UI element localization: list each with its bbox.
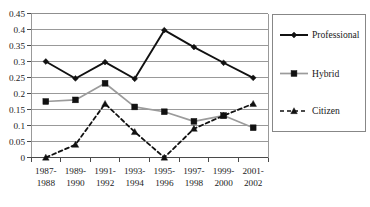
y-tick-label: 0.35: [9, 41, 25, 51]
y-tick-label: 0: [20, 153, 25, 163]
y-tick-label: 0.3: [14, 57, 26, 67]
chart-legend: ProfessionalHybridCitizen: [272, 14, 365, 131]
series-line: [46, 30, 253, 79]
legend-label: Citizen: [312, 105, 340, 116]
y-tick-label: 0.1: [14, 121, 26, 131]
y-tick-label: 0.4: [14, 25, 26, 35]
marker-square: [102, 80, 108, 86]
x-axis-labels: 1987-19881989-19901991-19921993-19941995…: [35, 166, 264, 188]
plot-frame: [31, 14, 268, 158]
marker-square: [161, 109, 167, 115]
y-tick-label: 0.25: [9, 73, 25, 83]
legend-label: Hybrid: [312, 68, 339, 79]
x-axis: [27, 158, 268, 163]
x-tick-label: 1994: [126, 178, 145, 188]
x-tick-label: 1999-: [213, 166, 234, 176]
y-tick-label: 0.15: [9, 105, 25, 115]
line-chart: 00.050.10.150.20.250.30.350.40.45 1987-1…: [0, 0, 370, 207]
marker-square: [73, 97, 79, 103]
x-tick-label: 2001-: [242, 166, 263, 176]
marker-square: [191, 118, 197, 124]
series-hybrid: [43, 80, 256, 130]
series-line: [46, 104, 253, 158]
y-tick-label: 0.05: [9, 137, 25, 147]
x-tick-label: 1993-: [124, 166, 145, 176]
gridlines: [31, 14, 268, 142]
legend-label: Professional: [312, 29, 360, 40]
y-axis-labels: 00.050.10.150.20.250.30.350.40.45: [9, 9, 31, 163]
series-line: [46, 83, 253, 127]
marker-square: [43, 99, 49, 105]
x-tick-label: 1992: [96, 178, 115, 188]
marker-triangle: [250, 100, 257, 106]
series-professional: [43, 27, 256, 81]
x-tick-label: 1997-: [183, 166, 204, 176]
x-tick-label: 1991-: [94, 166, 115, 176]
x-tick-label: 1996: [155, 178, 174, 188]
x-tick-label: 2000: [214, 178, 233, 188]
x-tick-label: 1989-: [65, 166, 86, 176]
x-tick-label: 1988: [37, 178, 56, 188]
x-tick-label: 2002: [244, 178, 263, 188]
marker-square: [132, 104, 138, 110]
x-tick-label: 1990: [66, 178, 85, 188]
marker-square: [291, 71, 297, 77]
y-tick-label: 0.45: [9, 9, 25, 19]
y-tick-label: 0.2: [14, 89, 26, 99]
marker-triangle: [102, 100, 109, 106]
marker-square: [250, 125, 256, 131]
chart-container: 00.050.10.150.20.250.30.350.40.45 1987-1…: [0, 0, 370, 207]
x-tick-label: 1995-: [154, 166, 175, 176]
x-tick-label: 1987-: [35, 166, 56, 176]
x-tick-label: 1998: [185, 178, 204, 188]
